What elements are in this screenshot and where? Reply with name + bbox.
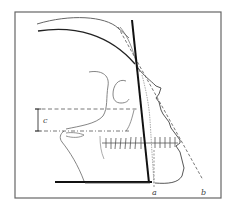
orbit-outline <box>113 80 129 103</box>
reference-line-b <box>118 27 203 180</box>
label-b: b <box>201 188 206 197</box>
label-c: c <box>43 116 48 125</box>
condyle-outline <box>66 133 84 138</box>
zygoma-outline <box>66 72 108 129</box>
figure-frame <box>15 12 221 198</box>
mandible-ramus <box>60 131 84 181</box>
mandible-body <box>100 136 104 159</box>
teeth-row <box>102 137 178 149</box>
vertical-reference-line <box>132 20 149 183</box>
maxilla-outline <box>126 110 134 131</box>
label-a: a <box>152 188 157 197</box>
cranium-outer-curve <box>37 18 129 38</box>
skull-profile-diagram: c a b <box>0 0 232 210</box>
cranium-inner-curve <box>38 29 135 64</box>
dimension-c-bracket <box>35 109 41 131</box>
